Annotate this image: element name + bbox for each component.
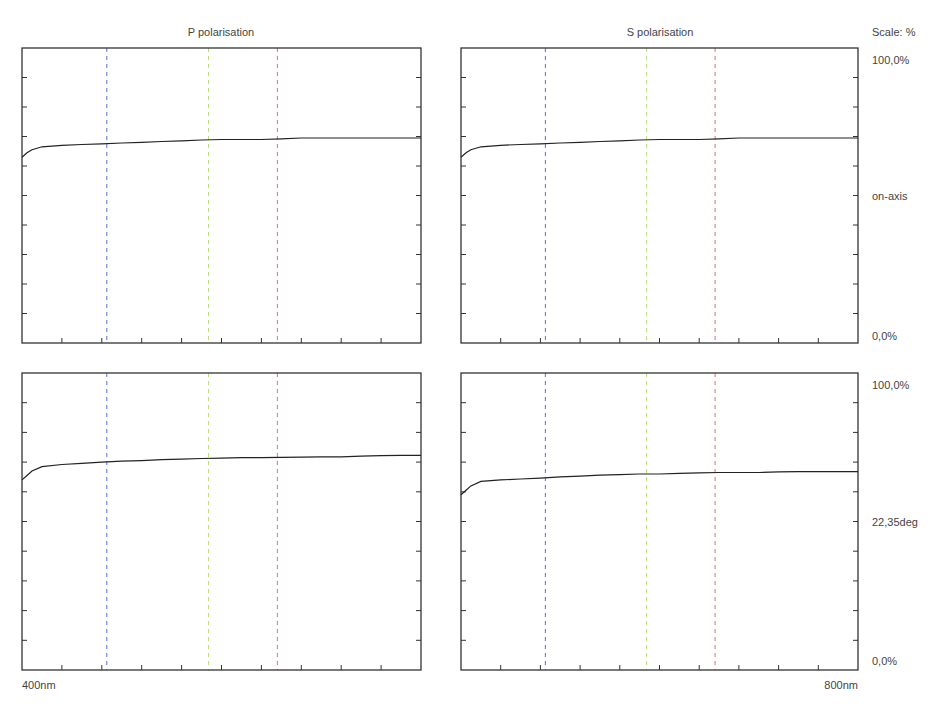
plot-frame (22, 48, 421, 343)
plot-frame (22, 373, 421, 670)
chart-canvas: P polarisation S polarisation Scale: % 1… (0, 0, 952, 714)
scale-label: Scale: % (872, 26, 916, 38)
plot-s-22deg (461, 373, 858, 670)
plot-s-on-axis (461, 48, 858, 343)
top-max-label: 100,0% (872, 54, 910, 66)
bottom-min-label: 0,0% (872, 655, 897, 667)
bottom-max-label: 100,0% (872, 379, 910, 391)
plot-frame (461, 373, 858, 670)
reflectance-curve (22, 455, 421, 480)
top-min-label: 0,0% (872, 330, 897, 342)
plot-p-on-axis (22, 48, 421, 343)
plot-p-22deg (22, 373, 421, 670)
reflectance-curve (461, 472, 858, 495)
bottom-condition-label: 22,35deg (872, 516, 918, 528)
p-polarisation-title: P polarisation (188, 26, 254, 38)
plot-frame (461, 48, 858, 343)
reflectance-curve (22, 138, 421, 157)
x-min-label: 400nm (22, 679, 56, 691)
reflectance-curve (461, 138, 858, 157)
x-max-label: 800nm (824, 679, 858, 691)
s-polarisation-title: S polarisation (627, 26, 694, 38)
top-condition-label: on-axis (872, 190, 908, 202)
